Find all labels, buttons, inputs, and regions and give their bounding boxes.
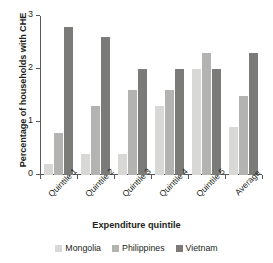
bar-group bbox=[114, 16, 151, 175]
bar bbox=[212, 69, 221, 175]
bar bbox=[165, 90, 174, 175]
bar-chart: Percentage of households with CHE 0123 Q… bbox=[0, 0, 273, 263]
bar bbox=[239, 96, 248, 176]
bar bbox=[101, 37, 110, 175]
chart-legend: MongoliaPhilippinesVietnam bbox=[0, 243, 273, 253]
bar-group bbox=[188, 16, 225, 175]
bar bbox=[91, 106, 100, 175]
x-axis-tick-labels: Quintile 1Quintile 2Quintile 3Quintile 4… bbox=[40, 177, 262, 219]
bar-group bbox=[151, 16, 188, 175]
bar bbox=[128, 90, 137, 175]
bar bbox=[44, 164, 53, 175]
bar bbox=[249, 53, 258, 175]
bar bbox=[175, 69, 184, 175]
legend-item: Philippines bbox=[112, 243, 165, 253]
bar bbox=[64, 27, 73, 175]
legend-swatch bbox=[112, 245, 119, 252]
bar-groups bbox=[40, 16, 262, 175]
legend-label: Philippines bbox=[122, 243, 165, 253]
legend-item: Vietnam bbox=[176, 243, 218, 253]
y-axis-tick-label: 2 bbox=[28, 62, 33, 72]
x-axis-tick bbox=[262, 175, 263, 179]
x-axis-label-slot: Quintile 2 bbox=[77, 177, 114, 219]
bar bbox=[54, 133, 63, 175]
x-axis-label-slot: Quintile 3 bbox=[114, 177, 151, 219]
plot-area: 0123 bbox=[40, 16, 262, 175]
legend-item: Mongolia bbox=[55, 243, 101, 253]
bar bbox=[192, 69, 201, 175]
y-axis-tick-label: 1 bbox=[28, 115, 33, 125]
x-axis-label-slot: Quintile 4 bbox=[151, 177, 188, 219]
bar bbox=[155, 106, 164, 175]
legend-label: Mongolia bbox=[65, 243, 101, 253]
bar bbox=[202, 53, 211, 175]
bar-group bbox=[40, 16, 77, 175]
bar bbox=[138, 69, 147, 175]
x-axis-label-slot: Average bbox=[225, 177, 262, 219]
x-axis-label-slot: Quintile 1 bbox=[40, 177, 77, 219]
x-axis-title: Expenditure quintile bbox=[0, 220, 273, 230]
y-axis-title: Percentage of households with CHE bbox=[18, 5, 28, 175]
legend-label: Vietnam bbox=[186, 243, 218, 253]
x-axis-label-slot: Quintile 5 bbox=[188, 177, 225, 219]
bar-group bbox=[225, 16, 262, 175]
bar bbox=[118, 154, 127, 175]
bar bbox=[229, 127, 238, 175]
legend-swatch bbox=[55, 245, 62, 252]
bar-group bbox=[77, 16, 114, 175]
bar bbox=[81, 154, 90, 175]
y-axis-tick-label: 0 bbox=[28, 168, 33, 178]
legend-swatch bbox=[176, 245, 183, 252]
y-axis-tick-label: 3 bbox=[28, 9, 33, 19]
